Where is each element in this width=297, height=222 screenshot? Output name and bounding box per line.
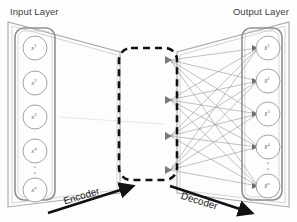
input-layer-title: Input Layer [10,6,59,17]
diagram-canvas: x1 x2 x3 x4 xn x̂1 x̂2 x̂3 x̂4 x̂n [0,0,297,222]
encoder-decoder-arrows [0,0,297,222]
output-layer-title: Output Layer [233,6,289,17]
